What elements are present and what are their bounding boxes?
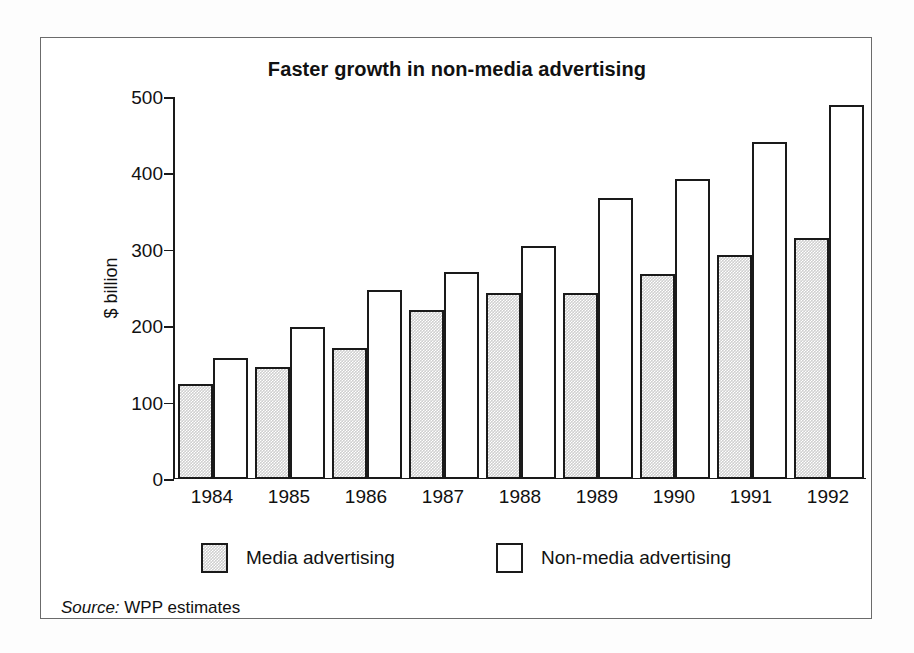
x-group-tick-1986 <box>323 468 325 479</box>
x-group-tick-1991 <box>708 468 710 479</box>
bar-media-1984 <box>178 384 213 480</box>
y-axis-label: $ billion <box>101 257 122 318</box>
y-tick-label: 100 <box>131 393 163 415</box>
bar-nonmedia-1986 <box>367 290 402 479</box>
y-tick-mark <box>164 403 174 405</box>
x-group-tick-1989 <box>554 468 556 479</box>
y-tick-mark <box>164 326 174 328</box>
bar-nonmedia-1990 <box>675 179 710 479</box>
legend-swatch-nonmedia-icon <box>496 543 523 573</box>
bar-nonmedia-1988 <box>521 246 556 479</box>
bar-media-1986 <box>332 348 367 479</box>
legend-swatch-media-icon <box>201 543 228 573</box>
x-group-tick-1988 <box>477 468 479 479</box>
x-group-tick-1987 <box>400 468 402 479</box>
y-tick-mark <box>164 479 174 481</box>
bar-media-1985 <box>255 367 290 479</box>
bar-media-1987 <box>409 310 444 479</box>
y-tick-label: 500 <box>131 87 163 109</box>
legend-label-media: Media advertising <box>246 547 395 569</box>
y-tick-label: 300 <box>131 240 163 262</box>
bar-group-1984 <box>176 97 253 479</box>
bar-nonmedia-1985 <box>290 327 325 479</box>
bar-group-1992 <box>792 97 869 479</box>
bar-group-1988 <box>484 97 561 479</box>
y-axis-line <box>173 97 175 479</box>
chart-figure: Faster growth in non-media advertising $… <box>0 0 914 653</box>
legend-label-nonmedia: Non-media advertising <box>541 547 731 569</box>
bar-media-1989 <box>563 293 598 479</box>
source-text: WPP estimates <box>124 598 240 617</box>
x-group-tick-1992 <box>785 468 787 479</box>
bar-nonmedia-1989 <box>598 198 633 479</box>
bar-group-1990 <box>638 97 715 479</box>
y-tick-mark <box>164 97 174 99</box>
x-tick-label-1992: 1992 <box>783 486 873 508</box>
bar-group-1985 <box>253 97 330 479</box>
legend-item-media: Media advertising <box>201 543 395 573</box>
bar-nonmedia-1984 <box>213 358 248 479</box>
bar-group-1987 <box>407 97 484 479</box>
bar-group-1986 <box>330 97 407 479</box>
x-group-tick-1985 <box>246 468 248 479</box>
legend-item-nonmedia: Non-media advertising <box>496 543 731 573</box>
source-note: Source: WPP estimates <box>61 598 240 618</box>
bar-group-1991 <box>715 97 792 479</box>
bar-media-1988 <box>486 293 521 479</box>
bar-group-1989 <box>561 97 638 479</box>
y-tick-mark <box>164 173 174 175</box>
y-tick-label: 200 <box>131 316 163 338</box>
bar-nonmedia-1992 <box>829 105 864 479</box>
y-tick-mark <box>164 250 174 252</box>
chart-frame: Faster growth in non-media advertising $… <box>40 37 872 619</box>
bar-media-1991 <box>717 255 752 479</box>
plot-area: $ billion 0100200300400500 1984198519861… <box>173 97 866 479</box>
chart-legend: Media advertising Non-media advertising <box>41 543 873 583</box>
source-prefix: Source: <box>61 598 120 617</box>
y-tick-label: 400 <box>131 163 163 185</box>
y-tick-label: 0 <box>152 469 163 491</box>
bar-nonmedia-1991 <box>752 142 787 479</box>
bar-media-1992 <box>794 238 829 479</box>
chart-title: Faster growth in non-media advertising <box>41 58 873 81</box>
bar-media-1990 <box>640 274 675 479</box>
x-group-tick-1990 <box>631 468 633 479</box>
bar-nonmedia-1987 <box>444 272 479 479</box>
